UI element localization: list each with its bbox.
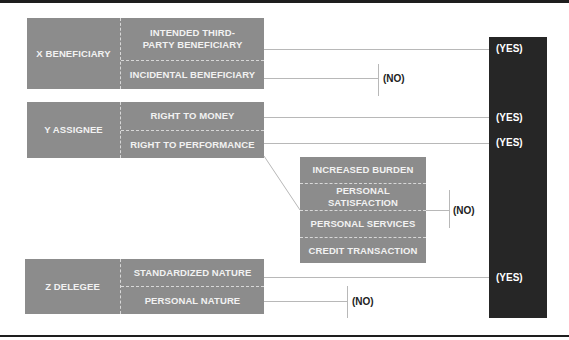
outcome-yes: (YES) bbox=[496, 137, 523, 148]
no-bar bbox=[347, 286, 348, 318]
connector bbox=[426, 210, 449, 211]
outcome-yes: (YES) bbox=[496, 272, 523, 283]
outcome-no: (NO) bbox=[383, 73, 405, 84]
outcome-no: (NO) bbox=[352, 296, 374, 307]
connector bbox=[264, 277, 489, 278]
outcome-yes: (YES) bbox=[496, 43, 523, 54]
outcome-no: (NO) bbox=[453, 205, 475, 216]
connector bbox=[264, 301, 347, 302]
diagonal-connector bbox=[0, 0, 569, 340]
no-bar bbox=[449, 190, 450, 228]
outcome-yes: (YES) bbox=[496, 112, 523, 123]
